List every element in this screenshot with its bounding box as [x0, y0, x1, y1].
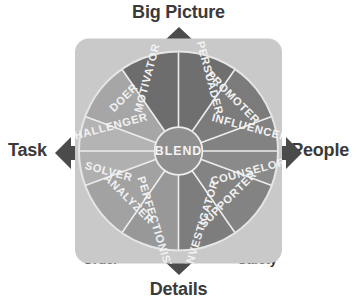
behavioral-wheel: BLEND MOTIVATOR PERSUADER DOER PROMOTER … [75, 38, 282, 264]
axis-label-bottom: Details [0, 279, 357, 300]
center-label: BLEND [155, 144, 202, 158]
axis-label-top: Big Picture [0, 2, 357, 23]
diagram-canvas: Big Picture Details Task People Action P… [0, 0, 357, 302]
axis-label-left: Task [8, 140, 47, 161]
